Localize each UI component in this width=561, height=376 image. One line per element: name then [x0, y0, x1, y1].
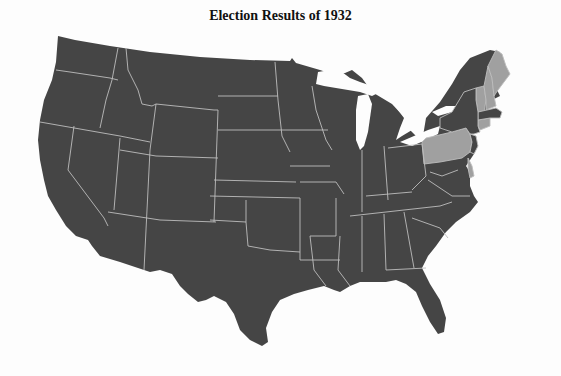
us-election-map [0, 0, 561, 376]
state-new-jersey [470, 134, 478, 154]
us-outline [38, 36, 502, 346]
